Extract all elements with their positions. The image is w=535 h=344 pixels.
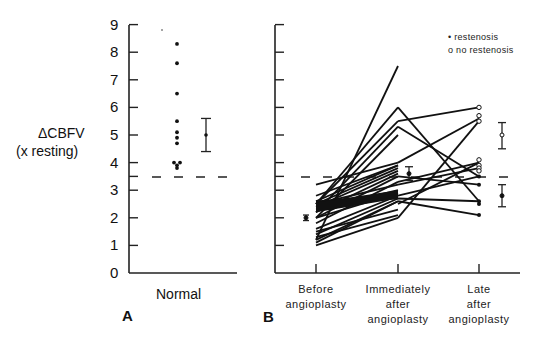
late-filled-point — [477, 183, 481, 187]
late-open-point — [477, 105, 481, 109]
legend: • restenosis o no restenosis — [448, 32, 514, 55]
legend-no-restenosis: o no restenosis — [448, 45, 514, 55]
normal-error-bar — [201, 118, 211, 151]
category-label: after — [386, 298, 411, 310]
patient-line-late — [398, 107, 479, 121]
patient-line-early — [316, 215, 398, 237]
normal-category-label: Normal — [156, 286, 201, 302]
panel-b-label: B — [263, 308, 274, 325]
mean-point — [204, 133, 208, 137]
panel-a: 0123456789 ΔCBFV (x resting) Normal A — [16, 16, 237, 324]
y-tick-label: 1 — [110, 236, 118, 253]
y-tick-label: 5 — [110, 126, 118, 143]
panel-b: BeforeangioplastyImmediatelyafterangiopl… — [263, 25, 520, 325]
late-open-point — [477, 169, 481, 173]
mean-point — [407, 172, 411, 176]
late-open-point — [477, 158, 481, 162]
normal-data-point — [178, 161, 182, 165]
mean-point — [304, 216, 308, 220]
normal-data-point — [175, 92, 179, 96]
y-axis-label-line1: ΔCBFV — [38, 125, 85, 141]
category-label: Before — [298, 283, 333, 295]
patient-lines — [316, 66, 479, 245]
patient-line-late — [398, 118, 479, 162]
y-tick-label: 9 — [110, 16, 118, 33]
normal-data-point — [175, 166, 179, 170]
normal-data-point — [175, 119, 179, 123]
category-label: after — [467, 298, 492, 310]
y-tick-label: 3 — [110, 181, 118, 198]
mean-point — [500, 133, 504, 137]
late-open-point — [477, 113, 481, 117]
figure: 0123456789 ΔCBFV (x resting) Normal A Be… — [0, 0, 535, 344]
late-open-point — [477, 119, 481, 123]
late-points — [477, 105, 481, 217]
panel-b-category-labels: BeforeangioplastyImmediatelyafterangiopl… — [285, 283, 509, 325]
y-tick-label: 8 — [110, 43, 118, 60]
y-axis-label-line2: (x resting) — [16, 143, 78, 159]
y-tick-label: 6 — [110, 98, 118, 115]
panel-a-label: A — [122, 307, 133, 324]
category-label: angioplasty — [367, 313, 428, 325]
late-filled-point — [477, 202, 481, 206]
y-tick-label: 0 — [110, 264, 118, 281]
late-filled-point — [477, 174, 481, 178]
normal-data-point — [175, 136, 179, 140]
patient-line-late — [398, 107, 479, 201]
y-tick-label: 7 — [110, 71, 118, 88]
panel-a-y-axis: 0123456789 — [110, 16, 138, 281]
y-tick-label: 2 — [110, 209, 118, 226]
legend-restenosis: • restenosis — [448, 32, 498, 42]
y-tick-label: 4 — [110, 154, 118, 171]
mean-point — [500, 194, 504, 198]
category-label: angioplasty — [448, 313, 509, 325]
normal-data-point — [175, 130, 179, 134]
category-label: Late — [467, 283, 490, 295]
normal-data-point — [172, 161, 176, 165]
category-label: Immediately — [366, 283, 431, 295]
late-filled-point — [477, 213, 481, 217]
stray-dot — [161, 29, 163, 31]
category-label: angioplasty — [285, 298, 346, 310]
normal-data-point — [175, 141, 179, 145]
normal-data-point — [175, 61, 179, 65]
normal-points — [172, 42, 182, 170]
normal-data-point — [175, 42, 179, 46]
patient-line-late — [398, 198, 479, 201]
